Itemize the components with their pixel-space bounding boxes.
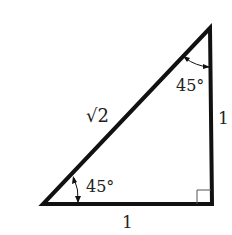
horizontal-side-label: 1 bbox=[122, 212, 133, 232]
triangle-diagram: 45° √2 1 45° 1 bbox=[0, 0, 232, 235]
vertical-side-label: 1 bbox=[218, 108, 229, 128]
right-triangle bbox=[43, 28, 212, 204]
bottom-angle-label: 45° bbox=[86, 177, 114, 196]
top-angle-label: 45° bbox=[176, 76, 204, 95]
right-angle-marker bbox=[197, 190, 211, 204]
bottom-arrowhead-bottom-icon bbox=[75, 196, 81, 203]
hypotenuse-label: √2 bbox=[86, 105, 109, 126]
